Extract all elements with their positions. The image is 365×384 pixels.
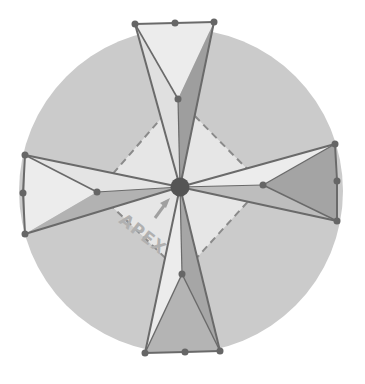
star-facet-diagram: APEX [0, 0, 365, 384]
apex-point [171, 178, 190, 197]
diagram-canvas: APEX [0, 0, 365, 384]
